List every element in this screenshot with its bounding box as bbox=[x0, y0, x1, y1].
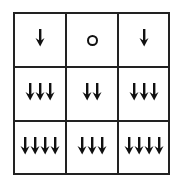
down-arrow-icon bbox=[40, 137, 50, 159]
down-arrow-icon bbox=[25, 83, 35, 105]
down-arrow-icon bbox=[149, 83, 159, 105]
down-arrow-icon bbox=[144, 137, 154, 159]
down-arrow-icon bbox=[35, 29, 45, 51]
arrow-group bbox=[82, 83, 102, 105]
down-arrow-icon bbox=[50, 137, 60, 159]
arrow-group bbox=[124, 137, 164, 159]
arrow-group bbox=[25, 83, 55, 105]
circle-icon bbox=[87, 35, 98, 46]
down-arrow-icon bbox=[45, 83, 55, 105]
arrow-group bbox=[129, 83, 159, 105]
down-arrow-icon bbox=[20, 137, 30, 159]
grid-cell-r3-c3 bbox=[119, 122, 168, 173]
down-arrow-icon bbox=[134, 137, 144, 159]
down-arrow-icon bbox=[82, 83, 92, 105]
down-arrow-icon bbox=[30, 137, 40, 159]
down-arrow-icon bbox=[139, 83, 149, 105]
arrow-group bbox=[20, 137, 60, 159]
down-arrow-icon bbox=[154, 137, 164, 159]
down-arrow-icon bbox=[92, 83, 102, 105]
grid-cell-r2-c2 bbox=[67, 68, 119, 122]
grid-cell-r2-c3 bbox=[119, 68, 168, 122]
down-arrow-icon bbox=[124, 137, 134, 159]
down-arrow-icon bbox=[35, 83, 45, 105]
grid-cell-r1-c2 bbox=[67, 14, 119, 68]
arrow-group bbox=[35, 29, 45, 51]
down-arrow-icon bbox=[87, 137, 97, 159]
arrow-group bbox=[139, 29, 149, 51]
down-arrow-icon bbox=[139, 29, 149, 51]
down-arrow-icon bbox=[77, 137, 87, 159]
grid-cell-r2-c1 bbox=[15, 68, 67, 122]
grid-cell-r3-c1 bbox=[15, 122, 67, 173]
down-arrow-icon bbox=[97, 137, 107, 159]
grid-cell-r3-c2 bbox=[67, 122, 119, 173]
grid-cell-r1-c3 bbox=[119, 14, 168, 68]
puzzle-grid bbox=[13, 12, 170, 175]
grid-cell-r1-c1 bbox=[15, 14, 67, 68]
down-arrow-icon bbox=[129, 83, 139, 105]
arrow-group bbox=[77, 137, 107, 159]
